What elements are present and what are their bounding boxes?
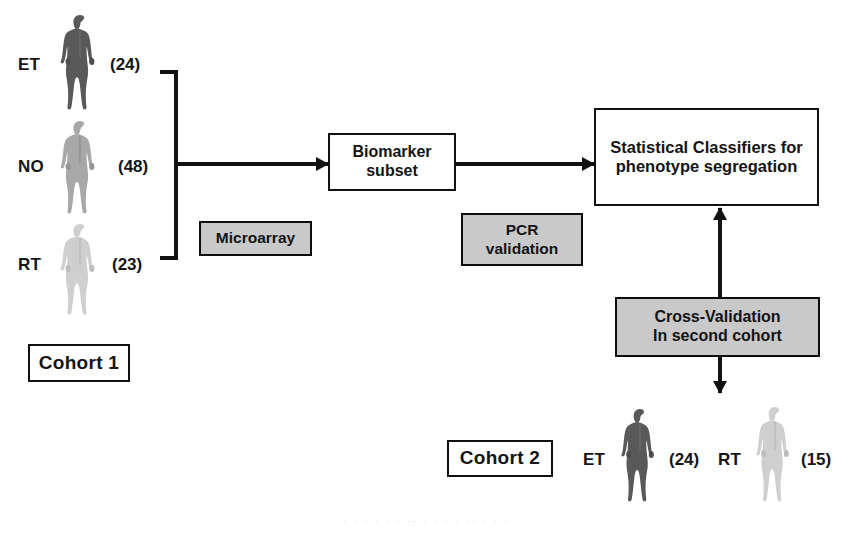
- cross-validation-box: Cross-Validation In second cohort: [615, 297, 820, 357]
- cohort1-group-count-et: (24): [110, 56, 140, 73]
- microarray-box: Microarray: [199, 221, 312, 256]
- cohort2-label-text: Cohort 2: [460, 447, 541, 469]
- pcr-line1: PCR: [506, 221, 539, 238]
- arrow-biomarker-to-classifier: [456, 162, 594, 166]
- cohort1-group-count-rt: (23): [112, 256, 142, 273]
- biomarker-subset-box: Biomarker subset: [328, 133, 456, 191]
- cohort2-group-count-rt: (15): [801, 451, 831, 468]
- cohort2-group-label-et: ET: [583, 451, 605, 468]
- person-icon-et-cohort1: [56, 13, 104, 111]
- crossval-line1: Cross-Validation: [654, 308, 780, 325]
- biomarker-subset-line1: Biomarker: [352, 143, 431, 160]
- bracket-bottom-stub: [160, 256, 178, 260]
- person-icon-rt-cohort2: [752, 405, 798, 503]
- microarray-label: Microarray: [216, 229, 295, 247]
- classifier-line1: Statistical Classifiers for: [610, 138, 803, 156]
- arrowhead-up-icon: [713, 207, 727, 220]
- person-icon-no-cohort1: [56, 119, 104, 215]
- cohort1-group-count-no: (48): [118, 158, 148, 175]
- cohort1-group-label-no: NO: [18, 158, 44, 175]
- person-icon-rt-cohort1: [56, 222, 104, 316]
- arrowhead-down-icon: [713, 381, 727, 394]
- pcr-line2: validation: [486, 240, 558, 257]
- scan-artifact-text: · · · · · · ·· · · · · ·· · · ·: [0, 515, 852, 529]
- arrow-crossval-to-classifier: [718, 208, 722, 297]
- cohort1-label-text: Cohort 1: [39, 352, 120, 374]
- biomarker-subset-line2: subset: [366, 162, 418, 179]
- crossval-line2: In second cohort: [653, 327, 782, 344]
- person-icon-et-cohort2: [617, 407, 663, 503]
- cohort1-group-label-et: ET: [18, 56, 40, 73]
- classifier-line2: phenotype segregation: [616, 157, 798, 175]
- diagram-canvas: ET (24) NO (48) RT (23) Cohort 1: [0, 0, 852, 533]
- cohort2-group-label-rt: RT: [718, 451, 741, 468]
- cohort2-label-box: Cohort 2: [447, 440, 553, 477]
- statistical-classifiers-box: Statistical Classifiers for phenotype se…: [594, 108, 819, 206]
- cohort1-group-label-rt: RT: [18, 256, 41, 273]
- cohort2-group-count-et: (24): [669, 451, 699, 468]
- pcr-validation-box: PCR validation: [461, 213, 583, 266]
- arrow-bracket-to-biomarker: [176, 162, 328, 166]
- arrow-crossval-to-cohort2: [718, 357, 722, 393]
- cohort1-label-box: Cohort 1: [28, 344, 130, 382]
